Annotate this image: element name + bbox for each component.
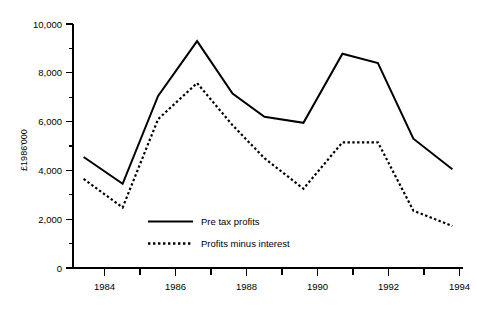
x-tick-label: 1994 [449, 281, 470, 292]
line-chart: 10,000 8,000 6,000 4,000 2,000 0 £1986'0… [0, 0, 477, 313]
chart-figure: 10,000 8,000 6,000 4,000 2,000 0 £1986'0… [0, 0, 477, 313]
x-tick-label: 1984 [94, 281, 115, 292]
x-axis-minor-ticks [140, 268, 424, 275]
chart-legend: Pre tax profits Profits minus interest [148, 216, 290, 249]
y-axis-title: £1986'000 [19, 129, 29, 171]
x-axis-tick-labels: 1984 1986 1988 1990 1992 1994 [94, 281, 470, 292]
y-tick-label: 6,000 [38, 116, 62, 127]
y-tick-label: 0 [57, 263, 62, 274]
x-tick-label: 1986 [165, 281, 186, 292]
y-axis-tick-labels: 10,000 8,000 6,000 4,000 2,000 0 [33, 19, 62, 274]
y-tick-label: 4,000 [38, 165, 62, 176]
y-tick-label: 2,000 [38, 214, 62, 225]
x-tick-label: 1988 [236, 281, 257, 292]
series-pre-tax-profits-line [84, 41, 453, 184]
y-tick-label: 10,000 [33, 19, 62, 30]
y-tick-label: 8,000 [38, 67, 62, 78]
legend-label-pre-tax-profits: Pre tax profits [201, 216, 260, 227]
legend-label-profits-minus-interest: Profits minus interest [201, 238, 290, 249]
x-tick-label: 1992 [378, 281, 399, 292]
x-tick-label: 1990 [307, 281, 328, 292]
